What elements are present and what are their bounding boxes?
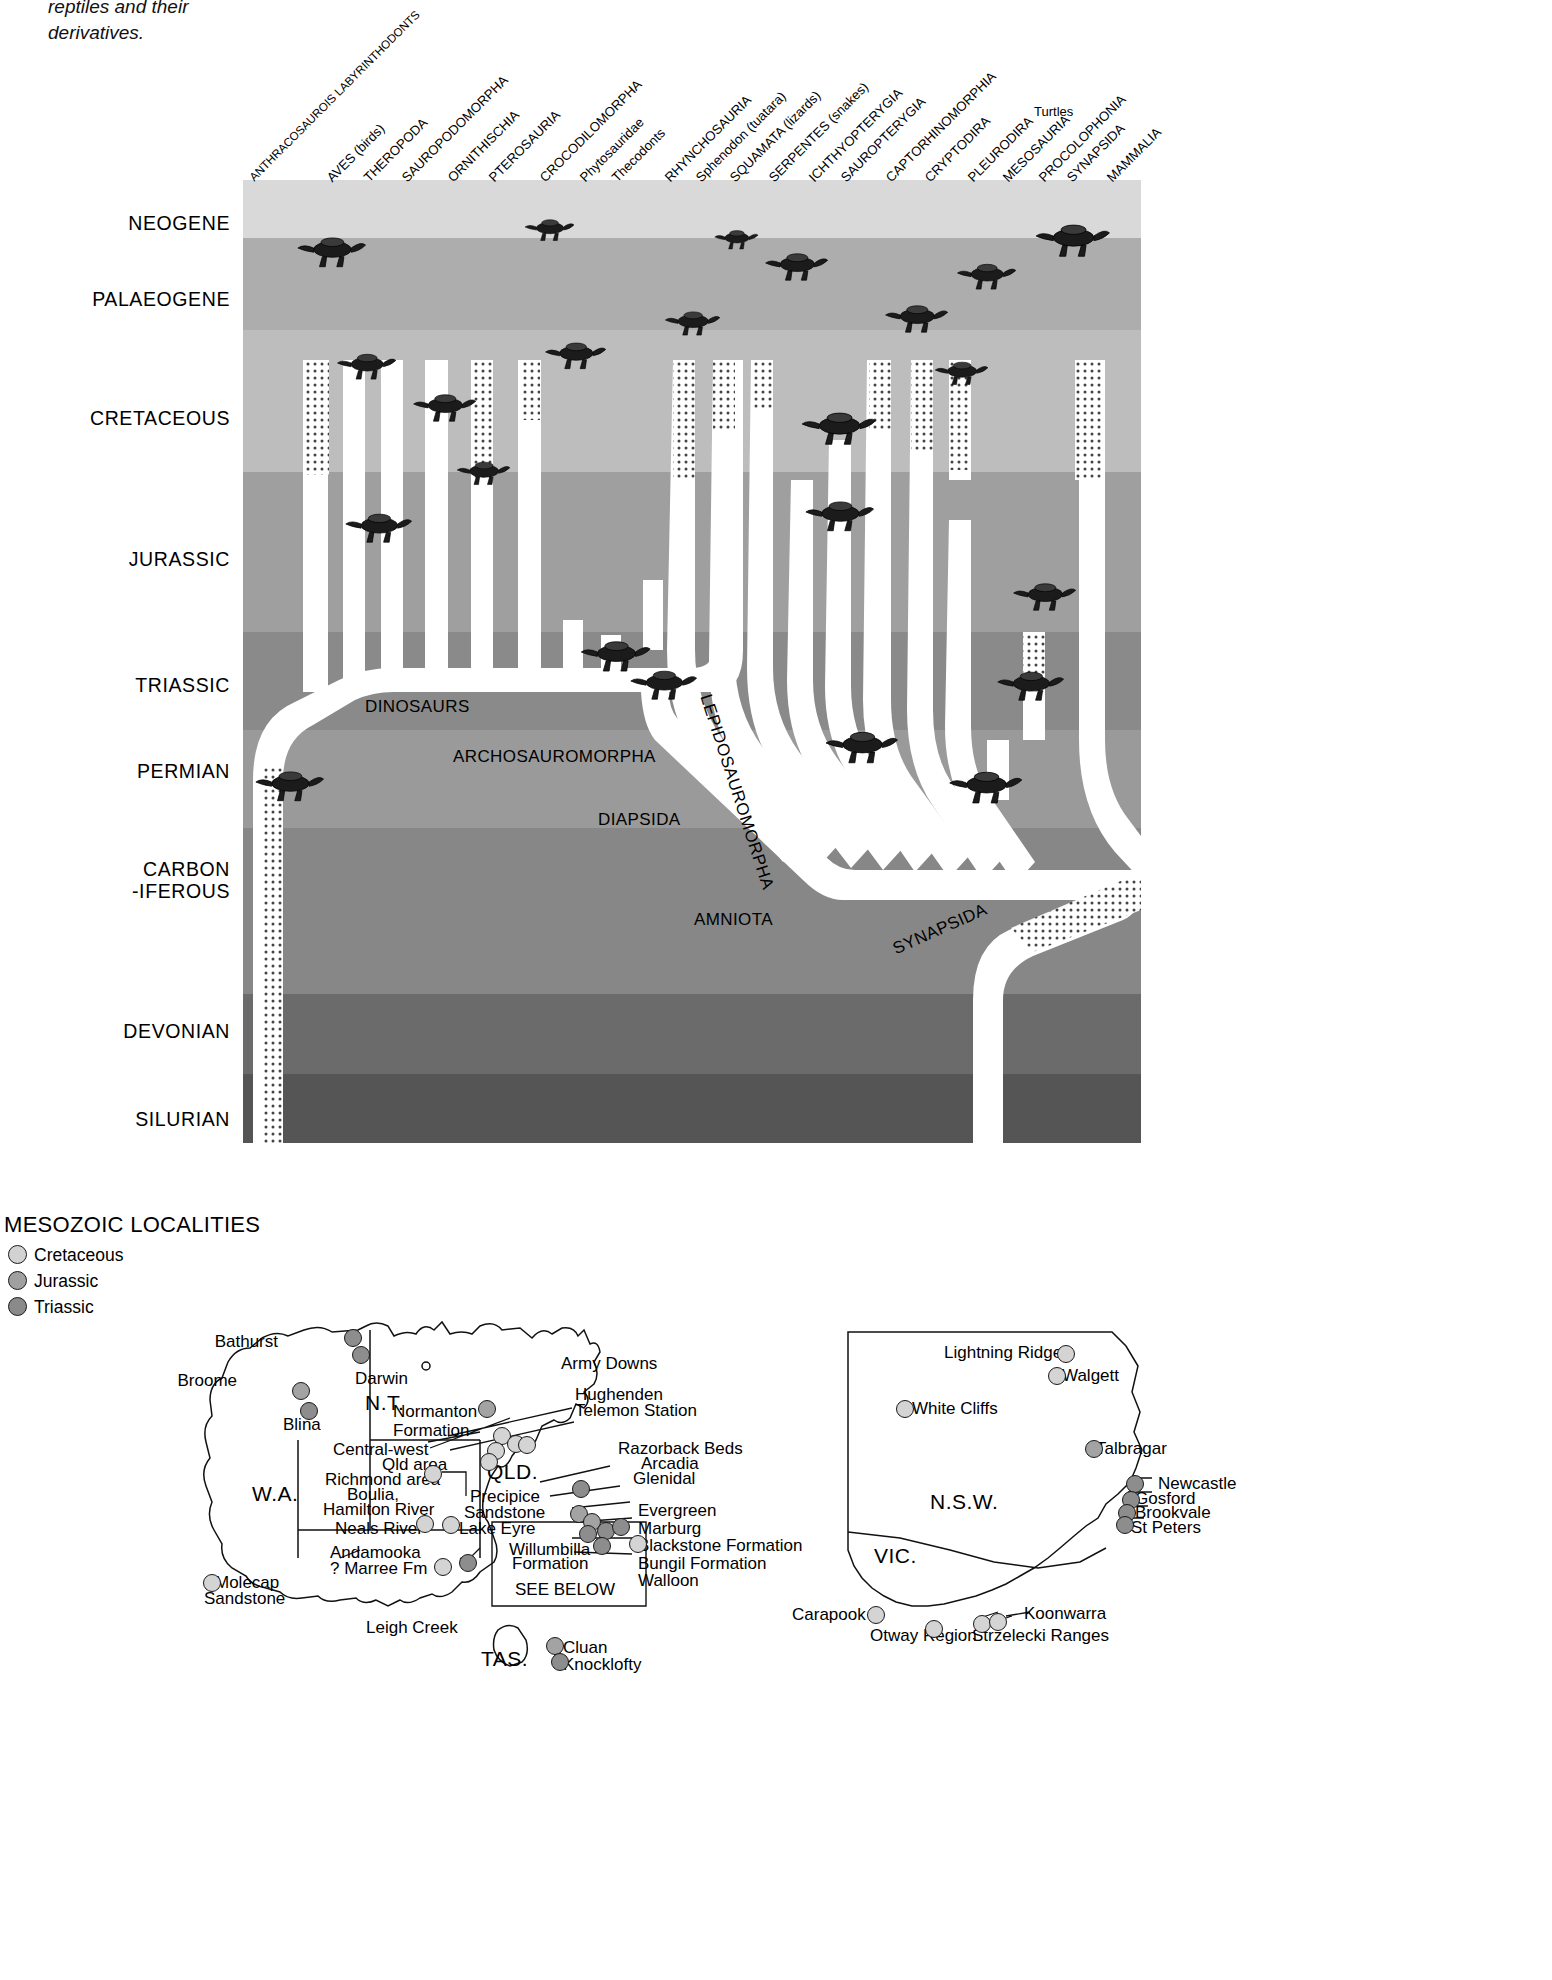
fossil-illustration	[995, 660, 1065, 704]
locality-dot-cret	[424, 1465, 442, 1483]
fossil-illustration	[823, 720, 899, 766]
map-label-lightning-ridge: Lightning Ridge	[944, 1344, 1062, 1363]
locality-dot-tri	[352, 1346, 370, 1364]
legend-title: MESOZOIC LOCALITIES	[4, 1212, 260, 1238]
period-label-devonian: DEVONIAN	[40, 1020, 230, 1043]
locality-dot-tri	[344, 1329, 362, 1347]
legend-dot-jurassic	[8, 1271, 27, 1290]
period-label-palaeogene: PALAEOGENE	[40, 288, 230, 311]
fossil-illustration	[713, 220, 759, 254]
map-label-carapook: Carapook	[792, 1606, 866, 1625]
locality-dot-jur	[292, 1382, 310, 1400]
map-label-marree-fm: ? Marree Fm	[330, 1560, 427, 1579]
map-label-talbragar: Talbragar	[1096, 1440, 1167, 1459]
period-label-neogene: NEOGENE	[40, 212, 230, 235]
fossil-illustration	[1033, 210, 1111, 262]
map-label-koonwarra: Koonwarra	[1024, 1605, 1106, 1624]
fossil-illustration	[883, 290, 949, 340]
map-label-formation: Formation	[512, 1555, 589, 1574]
legend-dot-cretaceous	[8, 1245, 27, 1264]
locality-dot-cret	[434, 1558, 452, 1576]
fossil-illustration	[253, 760, 325, 804]
map-label-blina: Blina	[283, 1416, 321, 1435]
legend-item-cretaceous: Cretaceous	[8, 1245, 124, 1266]
period-label-silurian: SILURIAN	[40, 1108, 230, 1131]
fossil-illustration	[933, 350, 989, 390]
map-label-see-below: SEE BELOW	[515, 1581, 615, 1600]
legend-dot-triassic	[8, 1297, 27, 1316]
locality-dot-cret	[896, 1400, 914, 1418]
map-label-otway-region: Otway Region	[870, 1627, 977, 1646]
map-label-bathurst: Bathurst	[215, 1333, 278, 1352]
turtles-group-label: Turtles	[1034, 104, 1073, 119]
map-label-white-cliffs: White Cliffs	[912, 1400, 998, 1419]
fossil-illustration	[943, 760, 1027, 806]
period-label-triassic: TRIASSIC	[40, 674, 230, 697]
fossil-illustration	[411, 380, 477, 428]
map-label-normanton-formation: NormantonFormation	[393, 1403, 477, 1440]
mesozoic-localities-maps: MESOZOIC LOCALITIES CretaceousJurassicTr…	[0, 1150, 1552, 1980]
map-label-w-a: W.A.	[252, 1482, 298, 1505]
locality-dot-cret	[416, 1515, 434, 1533]
map-label-darwin: Darwin	[355, 1370, 408, 1389]
fossil-illustration	[543, 330, 607, 374]
locality-dot-tri	[1116, 1516, 1134, 1534]
locality-dot-cret	[518, 1436, 536, 1454]
map-label-walloon: Walloon	[638, 1572, 699, 1591]
fossil-illustration	[1011, 570, 1077, 616]
legend-label-triassic: Triassic	[34, 1297, 94, 1317]
locality-dot-tri	[612, 1518, 630, 1536]
map-label-n-s-w: N.S.W.	[930, 1490, 998, 1513]
map-label-lake-eyre: Lake Eyre	[459, 1520, 536, 1539]
period-label-jurassic: JURASSIC	[40, 548, 230, 571]
fossil-illustration	[803, 490, 875, 534]
map-label-army-downs: Army Downs	[561, 1355, 657, 1374]
map-label-vic: VIC.	[874, 1544, 917, 1567]
locality-dot-tri	[572, 1480, 590, 1498]
map-label-st-peters: St Peters	[1131, 1519, 1201, 1538]
legend-item-jurassic: Jurassic	[8, 1271, 98, 1292]
period-label-permian: PERMIAN	[40, 760, 230, 783]
locality-dot-cret	[442, 1516, 460, 1534]
map-label-sandstone: Sandstone	[464, 1504, 545, 1523]
phylogeny-chart: DINOSAURSARCHOSAUROMORPHALEPIDOSAUROMORP…	[243, 180, 1141, 1143]
fossil-illustration	[295, 220, 367, 276]
period-label-cretaceous: CRETACEOUS	[40, 407, 230, 430]
clade-label-amniota: AMNIOTA	[694, 910, 773, 930]
map-label-sandstone: Sandstone	[204, 1590, 285, 1609]
locality-dot-tri	[551, 1653, 569, 1671]
map-label-neals-river: Neals River	[335, 1520, 423, 1539]
locality-dot-cret	[867, 1606, 885, 1624]
locality-dot-tri	[459, 1554, 477, 1572]
fossil-illustration	[455, 450, 511, 490]
map-label-evergreen: Evergreen	[638, 1502, 716, 1521]
locality-dot-tri	[593, 1537, 611, 1555]
locality-dot-cret	[925, 1620, 943, 1638]
clade-label-archosauromorpha: ARCHOSAUROMORPHA	[453, 747, 656, 767]
locality-dot-cret	[629, 1535, 647, 1553]
locality-dot-cret	[1057, 1345, 1075, 1363]
map-label-knocklofty: Knocklofty	[563, 1656, 641, 1675]
locality-dot-cret	[203, 1574, 221, 1592]
legend-item-triassic: Triassic	[8, 1297, 94, 1318]
clade-label-diapsida: DIAPSIDA	[598, 810, 681, 830]
period-label-carboniferous: CARBON-IFEROUS	[40, 858, 230, 903]
fossil-illustration	[523, 210, 575, 244]
fossil-illustration	[663, 300, 721, 340]
legend-label-jurassic: Jurassic	[34, 1271, 98, 1291]
locality-dot-jur	[1085, 1440, 1103, 1458]
locality-dot-cret	[989, 1613, 1007, 1631]
fossil-illustration	[799, 400, 877, 448]
locality-dot-tri	[300, 1402, 318, 1420]
map-label-telemon-station: Telemon Station	[575, 1402, 697, 1421]
clade-label-dinosaurs: DINOSAURS	[365, 697, 470, 717]
legend-label-cretaceous: Cretaceous	[34, 1245, 124, 1265]
map-label-blackstone-formation: Blackstone Formation	[638, 1537, 802, 1556]
locality-dot-jur	[478, 1400, 496, 1418]
locality-dot-cret	[480, 1453, 498, 1471]
map-label-leigh-creek: Leigh Creek	[366, 1619, 458, 1638]
fossil-illustration	[955, 250, 1017, 296]
map-label-tas: TAS.	[481, 1647, 528, 1670]
fossil-illustration	[335, 340, 397, 386]
figure-caption: reptiles and theirderivatives.	[48, 0, 278, 45]
